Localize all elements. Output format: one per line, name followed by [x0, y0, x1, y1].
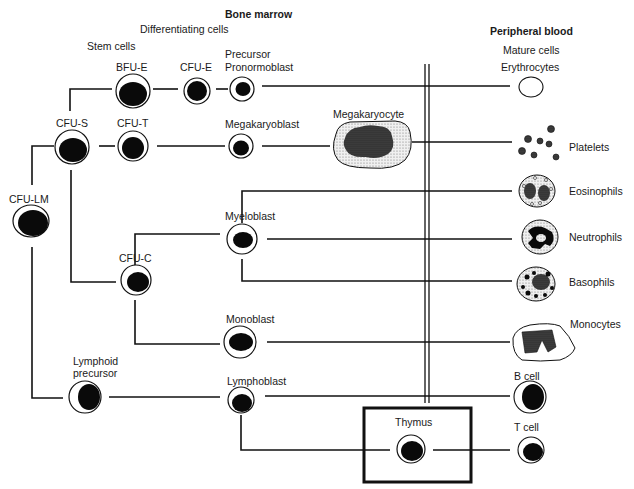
label-precursor: Precursor	[225, 48, 271, 60]
cell-b-cell	[514, 381, 546, 413]
cell-monoblast	[224, 326, 256, 358]
heading-bone-marrow: Bone marrow	[225, 8, 292, 20]
cell-cfu-s	[55, 130, 89, 164]
label-myeloblast: Myeloblast	[225, 210, 275, 222]
label-eosinophils: Eosinophils	[569, 185, 623, 197]
label-megakaryocyte: Megakaryocyte	[333, 108, 404, 120]
label-cfu-lm: CFU-LM	[9, 193, 49, 205]
label-bfu-e: BFU-E	[116, 61, 148, 73]
cell-eosinophil	[519, 175, 555, 207]
label-monocytes: Monocytes	[570, 318, 621, 330]
cell-megakaryocyte	[333, 121, 411, 168]
label-platelets: Platelets	[569, 141, 609, 153]
label-stem-cells: Stem cells	[87, 40, 135, 52]
label-cfu-e: CFU-E	[180, 61, 212, 73]
label-lymphoid-precursor: precursor	[73, 367, 117, 379]
cell-megakaryoblast	[229, 134, 253, 158]
label-cfu-s: CFU-S	[56, 117, 88, 129]
label-erythrocytes: Erythrocytes	[501, 61, 559, 73]
cell-basophil	[517, 267, 555, 301]
cell-platelets	[519, 126, 560, 161]
label-thymus: Thymus	[395, 416, 432, 428]
cell-bfu-e	[116, 74, 150, 108]
label-basophils: Basophils	[569, 276, 615, 288]
label-lymphoblast: Lymphoblast	[227, 375, 286, 387]
hematopoiesis-diagram: Bone marrow Peripheral blood Differentia…	[0, 0, 634, 489]
label-megakaryoblast: Megakaryoblast	[225, 118, 299, 130]
diagram-graphics	[0, 0, 634, 489]
cell-cfu-e	[184, 78, 210, 104]
cell-thymus-lymphocyte	[397, 435, 425, 463]
label-lymphoid: Lymphoid	[73, 355, 118, 367]
label-cfu-c: CFU-C	[119, 252, 152, 264]
heading-peripheral-blood: Peripheral blood	[490, 25, 573, 37]
cell-erythrocyte	[519, 77, 543, 97]
cell-monocyte	[513, 324, 575, 361]
label-pronormoblast: Pronormoblast	[225, 61, 293, 73]
cell-t-cell	[518, 437, 544, 463]
label-b-cell: B cell	[514, 370, 540, 382]
label-differentiating-cells: Differentiating cells	[140, 23, 229, 35]
cell-lymphoblast	[228, 387, 254, 413]
label-mature-cells: Mature cells	[503, 44, 560, 56]
label-neutrophils: Neutrophils	[569, 231, 622, 243]
label-t-cell: T cell	[514, 421, 539, 433]
label-monoblast: Monoblast	[226, 313, 274, 325]
cell-cfu-c	[121, 265, 151, 295]
cell-cfu-t	[118, 131, 148, 161]
label-cfu-t: CFU-T	[117, 117, 149, 129]
cell-pronormoblast	[230, 77, 254, 101]
cell-myeloblast	[227, 224, 257, 254]
cell-neutrophil	[522, 220, 558, 254]
cell-lymphoid-precursor	[69, 381, 101, 413]
cell-cfu-lm	[13, 205, 49, 237]
